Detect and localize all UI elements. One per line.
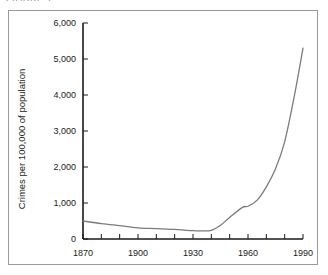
x-tick-label: 1930 — [183, 248, 203, 258]
y-tick-label: 5,000 — [53, 54, 76, 64]
y-tick-label: 0 — [71, 234, 76, 244]
x-tick-label: 1960 — [238, 248, 258, 258]
x-axis-tick-labels: 18701900193019601990 — [73, 248, 313, 258]
y-axis-tick-labels: 01,0002,0003,0004,0005,0006,000 — [53, 18, 76, 244]
chart-axes — [83, 23, 303, 239]
y-axis-title: Crimes per 100,000 of population — [16, 69, 27, 209]
y-tick-label: 3,000 — [53, 126, 76, 136]
y-tick-label: 4,000 — [53, 90, 76, 100]
y-tick-label: 6,000 — [53, 18, 76, 28]
y-tick-label: 1,000 — [53, 198, 76, 208]
crime-rate-line — [83, 48, 303, 231]
x-tick-label: 1990 — [293, 248, 313, 258]
line-chart: 01,0002,0003,0004,0005,0006,000 18701900… — [9, 11, 317, 264]
chart-plot-area: 01,0002,0003,0004,0005,0006,000 18701900… — [9, 11, 317, 264]
x-tick-label: 1900 — [128, 248, 148, 258]
x-tick-label: 1870 — [73, 248, 93, 258]
figure-frame: 01,0002,0003,0004,0005,0006,000 18701900… — [8, 10, 318, 265]
y-tick-label: 2,000 — [53, 162, 76, 172]
figure-caption-clipped: FIGURE 1 — [6, 0, 52, 1]
